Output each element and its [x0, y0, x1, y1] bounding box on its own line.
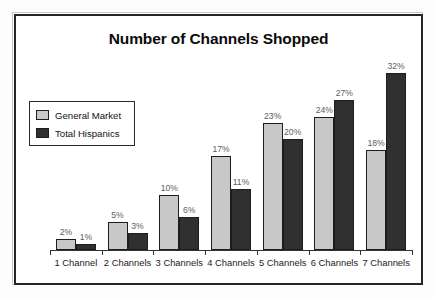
bar-value-label: 17%	[204, 144, 238, 154]
bar-th-6	[334, 100, 354, 250]
x-axis-category-label: 7 Channels	[355, 257, 417, 268]
bar-gm-6	[314, 117, 334, 250]
legend-label-total-hispanics: Total Hispanics	[55, 128, 120, 139]
x-axis-tick	[50, 250, 51, 255]
bar-group: 24%27%	[314, 56, 354, 250]
x-axis-tick	[205, 250, 206, 255]
legend-swatch-total-hispanics	[36, 128, 49, 138]
x-axis-tick	[153, 250, 154, 255]
bar-group: 5%3%	[108, 56, 148, 250]
bar-gm-7	[366, 150, 386, 250]
legend-item-general-market: General Market	[36, 108, 121, 122]
bar-group: 18%32%	[366, 56, 406, 250]
x-axis-tick	[257, 250, 258, 255]
chart-figure: Number of Channels Shopped 2%1%5%3%10%6%…	[0, 0, 436, 299]
bar-group: 17%11%	[211, 56, 251, 250]
bar-group: 23%20%	[263, 56, 303, 250]
x-axis-tick	[412, 250, 413, 255]
bar-value-label: 27%	[327, 88, 361, 98]
bar-value-label: 5%	[101, 210, 135, 220]
x-axis-line	[50, 250, 412, 251]
bar-th-7	[386, 73, 406, 250]
plot-area: 2%1%5%3%10%6%17%11%23%20%24%27%18%32%	[50, 56, 412, 250]
bar-gm-3	[159, 195, 179, 250]
bar-group: 10%6%	[159, 56, 199, 250]
legend-label-general-market: General Market	[55, 110, 121, 121]
chart-title: Number of Channels Shopped	[14, 30, 423, 48]
bar-value-label: 11%	[224, 177, 258, 187]
bar-value-label: 23%	[256, 111, 290, 121]
bar-th-4	[231, 189, 251, 250]
legend-item-total-hispanics: Total Hispanics	[36, 126, 120, 140]
x-axis-tick	[309, 250, 310, 255]
bar-group: 2%1%	[56, 56, 96, 250]
bar-gm-4	[211, 156, 231, 250]
bar-gm-5	[263, 123, 283, 250]
bar-value-label: 3%	[121, 221, 155, 231]
bar-value-label: 20%	[276, 127, 310, 137]
bar-value-label: 32%	[379, 61, 413, 71]
bar-th-3	[179, 217, 199, 250]
bar-value-label: 1%	[69, 232, 103, 242]
x-axis-tick	[102, 250, 103, 255]
legend-swatch-general-market	[36, 110, 49, 120]
bar-th-2	[128, 233, 148, 250]
bar-value-label: 10%	[152, 183, 186, 193]
bar-value-label: 6%	[172, 205, 206, 215]
chart-legend: General Market Total Hispanics	[29, 101, 135, 146]
bar-th-5	[283, 139, 303, 250]
x-axis-tick	[360, 250, 361, 255]
